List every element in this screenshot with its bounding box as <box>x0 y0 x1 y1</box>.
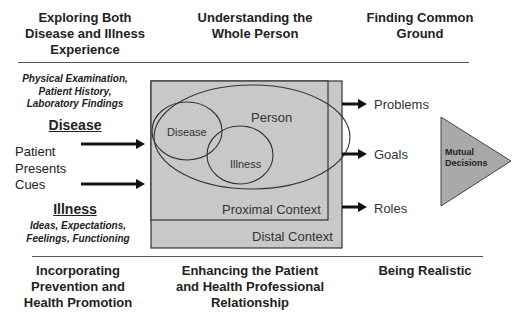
arrow-right-icon <box>81 179 145 189</box>
arrow-right-icon <box>342 202 367 212</box>
footer-line: Prevention and <box>8 279 148 295</box>
arrow-right-icon <box>342 99 367 109</box>
footer-line: Health Promotion <box>8 295 148 311</box>
text-line: Mutual <box>445 147 488 158</box>
footer-prevention: Incorporating Prevention and Health Prom… <box>8 263 148 311</box>
footer-realistic: Being Realistic <box>360 263 490 279</box>
text-line: Decisions <box>445 158 488 169</box>
footer-relationship: Enhancing the Patient and Health Profess… <box>170 263 330 311</box>
footer-line: Enhancing the Patient <box>170 263 330 279</box>
arrow-right-icon <box>342 149 367 159</box>
bottom-divider <box>32 256 483 257</box>
footer-line: Being Realistic <box>360 263 490 279</box>
distal-context-label: Distal Context <box>252 229 333 244</box>
output-roles: Roles <box>374 201 407 216</box>
arrow-right-icon <box>81 139 145 149</box>
illness-circle-label: Illness <box>230 158 261 170</box>
footer-line: and Health Professional <box>170 279 330 295</box>
output-problems: Problems <box>374 97 429 112</box>
proximal-context-label: Proximal Context <box>222 202 321 217</box>
footer-line: Incorporating <box>8 263 148 279</box>
output-goals: Goals <box>374 147 408 162</box>
person-label: Person <box>251 110 292 125</box>
mutual-decisions-label: Mutual Decisions <box>445 147 488 169</box>
disease-circle-label: Disease <box>167 126 207 138</box>
proximal-context-box <box>151 81 328 220</box>
footer-line: Relationship <box>170 295 330 311</box>
